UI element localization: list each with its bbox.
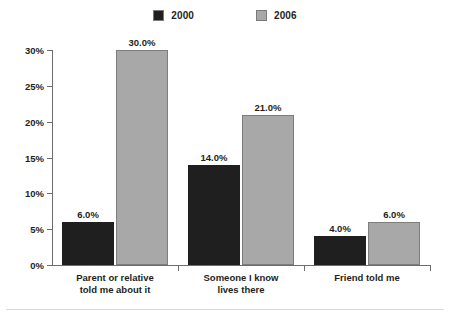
y-tick-label: 30% [25,45,44,56]
bar-chart: 2000 2006 0%5%10%15%20%25%30% 6.0%30.0%1… [0,0,450,313]
bar-value-label: 14.0% [201,152,228,163]
legend-item-2006[interactable]: 2006 [256,10,297,21]
bar-value-label: 4.0% [329,223,351,234]
category-label-line1: Friend told me [304,272,430,284]
plot-area: 0%5%10%15%20%25%30% 6.0%30.0%14.0%21.0%4… [52,50,430,265]
category-label-1: Someone I knowlives there [178,272,304,296]
bar-2000-0[interactable]: 6.0% [62,222,114,265]
x-axis-line [52,265,430,266]
y-tick-label: 25% [25,80,44,91]
x-separator-tick [178,265,179,271]
category-label-line2: lives there [178,284,304,296]
legend-item-2000[interactable]: 2000 [153,10,194,21]
y-tick-label: 10% [25,188,44,199]
y-tick-label: 5% [30,224,44,235]
y-tick-label: 20% [25,116,44,127]
legend-swatch-2000 [153,10,164,21]
y-tick-label: 15% [25,152,44,163]
y-tick-label: 0% [30,260,44,271]
x-separator-tick [430,265,431,271]
category-label-0: Parent or relativetold me about it [52,272,178,296]
chart-legend: 2000 2006 [0,10,450,21]
category-label-line2: told me about it [52,284,178,296]
x-axis-category-labels: Parent or relativetold me about itSomeon… [52,272,430,306]
legend-label-2006: 2006 [274,11,297,21]
y-tick-mark [47,265,52,266]
category-label-2: Friend told me [304,272,430,284]
bar-2006-2[interactable]: 6.0% [368,222,420,265]
bar-2006-0[interactable]: 30.0% [116,50,168,265]
category-label-line1: Parent or relative [52,272,178,284]
bar-value-label: 21.0% [255,102,282,113]
bar-value-label: 6.0% [383,209,405,220]
category-label-line1: Someone I know [178,272,304,284]
bar-value-label: 30.0% [129,37,156,48]
bar-2000-1[interactable]: 14.0% [188,165,240,265]
bar-2006-1[interactable]: 21.0% [242,115,294,266]
x-separator-tick [304,265,305,271]
bar-2000-2[interactable]: 4.0% [314,236,366,265]
bar-series-container: 6.0%30.0%14.0%21.0%4.0%6.0% [52,50,430,265]
legend-swatch-2006 [256,10,267,21]
page-rule [6,309,444,310]
legend-label-2000: 2000 [171,11,194,21]
bar-value-label: 6.0% [77,209,99,220]
